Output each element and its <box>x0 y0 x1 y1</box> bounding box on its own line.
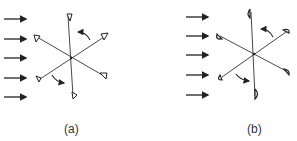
caption-b: (b) <box>247 122 262 136</box>
wind-arrows <box>4 19 26 97</box>
panel-b: (b) <box>150 0 297 141</box>
rotor-diagram-cup <box>150 0 297 141</box>
wind-arrows <box>186 17 208 95</box>
rotor-diagram-triangular <box>0 0 150 141</box>
caption-a: (a) <box>64 122 79 136</box>
rotor-arms <box>37 16 104 96</box>
panel-a: (a) <box>0 0 150 141</box>
